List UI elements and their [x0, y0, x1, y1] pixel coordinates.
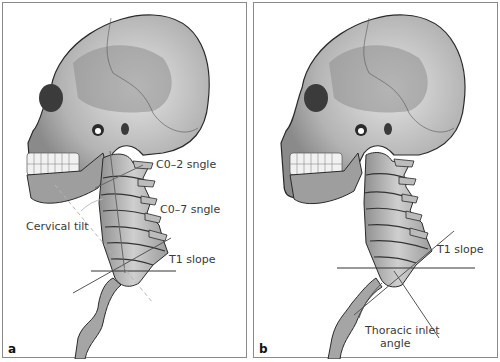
label-t1-slope: T1 slope — [169, 254, 215, 266]
panel-letter-a: a — [8, 342, 16, 356]
label-c0-7-angle: C0–7 sngle — [160, 204, 220, 216]
label-thoracic-inlet-angle-line2: angle — [380, 338, 411, 350]
skull-cervical-spine-illustration-a — [3, 3, 248, 359]
label-c0-2-angle: C0–2 sngle — [156, 159, 216, 171]
panel-a: C0–2 sngle C0–7 sngle Cervical tilt T1 s… — [2, 2, 247, 358]
label-cervical-tilt: Cervical tilt — [26, 221, 89, 233]
label-t1-slope: T1 slope — [437, 244, 483, 256]
panel-b: T1 slope Thoracic inlet angle b — [253, 2, 498, 358]
label-thoracic-inlet-angle-line1: Thoracic inlet — [365, 325, 440, 337]
skull-cervical-spine-illustration-b — [254, 3, 499, 359]
panel-letter-b: b — [259, 342, 268, 356]
